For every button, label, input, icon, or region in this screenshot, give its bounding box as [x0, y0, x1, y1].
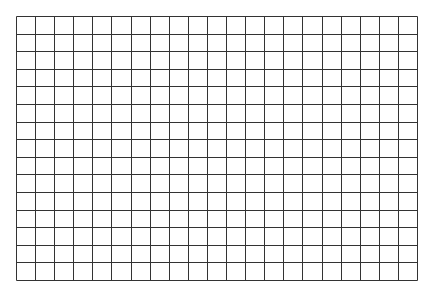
- grid-diagram: [16, 16, 419, 282]
